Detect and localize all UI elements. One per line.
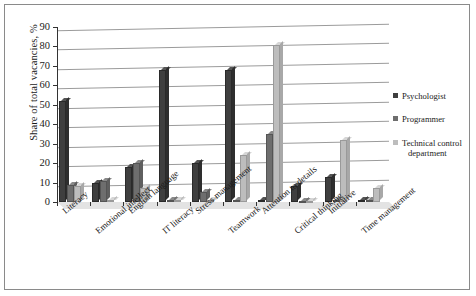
y-tick	[53, 124, 58, 125]
bar-face	[258, 200, 265, 202]
bar-group	[358, 27, 391, 202]
y-tick-label: 80	[40, 41, 51, 52]
bar-side-face	[280, 41, 283, 201]
y-tick-label: 60	[40, 80, 51, 91]
y-tick-label: 50	[40, 100, 51, 111]
bar-face	[373, 188, 380, 202]
bar-face	[92, 183, 99, 202]
bar-group	[192, 27, 225, 202]
bar-group	[59, 27, 92, 202]
legend-swatch	[393, 140, 398, 145]
legend-label-line2: department	[402, 148, 476, 158]
bar[interactable]	[373, 188, 380, 202]
legend-item[interactable]: Technical controldepartment	[393, 138, 476, 159]
bar-group	[258, 27, 291, 202]
bar-face	[174, 200, 181, 202]
bar[interactable]	[306, 201, 313, 202]
y-axis-line	[57, 27, 58, 202]
bar-side-face	[380, 184, 383, 200]
bar-side-face	[107, 177, 110, 200]
y-tick-label: 20	[40, 158, 51, 169]
bar[interactable]	[266, 134, 273, 202]
bar[interactable]	[59, 101, 66, 202]
legend-swatch	[393, 116, 398, 121]
chart-screenshot: Share of total vacancies, % 010203040506…	[0, 0, 476, 296]
chart-frame: Share of total vacancies, % 010203040506…	[4, 4, 470, 290]
y-tick-label: 90	[40, 22, 51, 33]
bar[interactable]	[258, 200, 265, 202]
y-axis-title: Share of total vacancies, %	[28, 0, 39, 173]
bar[interactable]	[299, 201, 306, 202]
bar-face	[192, 163, 199, 202]
bar[interactable]	[100, 181, 107, 202]
bar-face	[299, 201, 306, 203]
legend-label: Technical control	[402, 138, 476, 148]
bar[interactable]	[366, 200, 373, 202]
y-tick-label: 10	[40, 178, 51, 189]
y-tick	[53, 144, 58, 145]
y-tick-label: 70	[40, 61, 51, 72]
bar-face	[358, 200, 365, 202]
bar[interactable]	[358, 200, 365, 202]
bar-face	[366, 200, 373, 202]
bar-face	[233, 200, 240, 202]
y-tick	[53, 66, 58, 67]
bar-face	[107, 200, 114, 202]
y-tick-label: 0	[45, 197, 50, 208]
bar[interactable]	[107, 200, 114, 202]
bar[interactable]	[167, 200, 174, 202]
bar-group	[92, 27, 125, 202]
bar[interactable]	[233, 200, 240, 202]
x-axis-labels: LiteracyEmotional intellectEnglish langu…	[57, 205, 417, 296]
y-tick	[53, 105, 58, 106]
chart-legend: PsychologistProgrammerTechnical controld…	[393, 91, 476, 172]
x-tick-label: Teamwork	[227, 204, 262, 236]
y-tick	[53, 46, 58, 47]
y-tick	[53, 27, 58, 28]
y-tick	[53, 183, 58, 184]
bar[interactable]	[92, 183, 99, 202]
y-tick	[53, 163, 58, 164]
y-tick-label: 30	[40, 139, 51, 150]
y-tick-label: 40	[40, 119, 51, 130]
legend-item[interactable]: Programmer	[393, 114, 476, 124]
bar-face	[266, 134, 273, 202]
y-tick	[53, 85, 58, 86]
legend-label: Programmer	[402, 114, 476, 124]
bar[interactable]	[192, 163, 199, 202]
bar-face	[273, 45, 280, 203]
bar-face	[100, 181, 107, 202]
bar-group	[325, 27, 358, 202]
bar-group	[125, 27, 158, 202]
bar[interactable]	[174, 200, 181, 202]
bar[interactable]	[273, 45, 280, 203]
legend-label: Psychologist	[402, 91, 476, 101]
bar-face	[59, 101, 66, 202]
legend-item[interactable]: Psychologist	[393, 91, 476, 101]
x-tick-label: IT literacy	[161, 205, 196, 236]
plot-area: 0102030405060708090	[57, 27, 389, 202]
legend-swatch	[393, 93, 398, 98]
bar-face	[306, 201, 313, 203]
bar-face	[167, 200, 174, 202]
